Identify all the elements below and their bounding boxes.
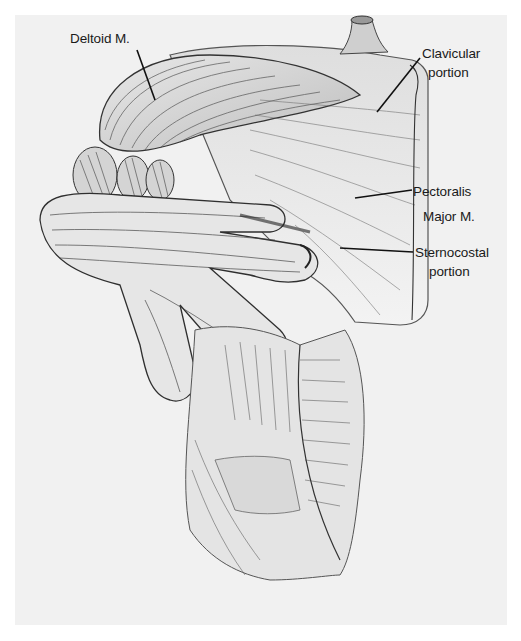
pectoralis-label-line2: Major M. (413, 207, 475, 226)
pectoralis-label-line1: Pectoralis (413, 182, 475, 201)
clavicular-label-line2: portion (422, 63, 480, 82)
muscle-illustration (0, 0, 521, 641)
neck-stump-shape (340, 20, 388, 54)
deltoid-label: Deltoid M. (70, 29, 130, 48)
pectoralis-major-label: Pectoralis Major M. (413, 182, 475, 226)
sternocostal-label-line2: portion (415, 262, 489, 281)
clavicular-label-line1: Clavicular (422, 44, 480, 63)
trunk-shape (186, 327, 364, 580)
sternocostal-label-line1: Sternocostal (415, 243, 489, 262)
clavicular-portion-label: Clavicular portion (422, 44, 480, 82)
deltoid-label-text: Deltoid M. (70, 29, 130, 48)
sternocostal-portion-label: Sternocostal portion (415, 243, 489, 281)
